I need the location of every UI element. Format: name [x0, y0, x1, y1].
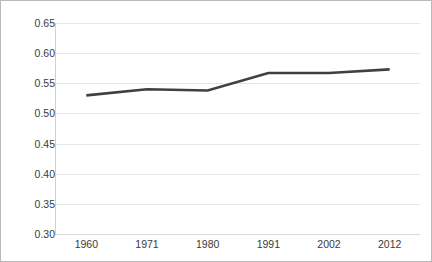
x-axis-tick-labels: 196019711980199120022012 [56, 239, 420, 257]
plot-area [56, 23, 420, 234]
y-axis-tick-labels: 0.650.600.550.500.450.400.350.30 [7, 6, 55, 256]
chart-frame: 0.650.600.550.500.450.400.350.30 1960197… [0, 0, 432, 262]
y-axis-tick-label: 0.40 [11, 169, 55, 180]
y-axis-tick-label: 0.50 [11, 108, 55, 119]
x-axis-line [56, 234, 420, 235]
y-axis-tick-label: 0.65 [11, 18, 55, 29]
chart-plot-container: 0.650.600.550.500.450.400.350.30 1960197… [7, 6, 425, 256]
y-axis-tick-label: 0.30 [11, 229, 55, 240]
x-axis-tick-label: 1960 [56, 239, 116, 250]
x-axis-tick-label: 1980 [178, 239, 238, 250]
x-axis-tick-label: 1991 [238, 239, 298, 250]
y-axis-tick-label: 0.60 [11, 48, 55, 59]
y-axis-tick-label: 0.45 [11, 139, 55, 150]
y-axis-tick-label: 0.55 [11, 78, 55, 89]
y-axis-tick-label: 0.35 [11, 199, 55, 210]
line-series-chart [56, 23, 420, 234]
x-axis-tick-label: 2002 [299, 239, 359, 250]
x-axis-tick-label: 1971 [117, 239, 177, 250]
series-line-path [86, 69, 389, 95]
x-axis-tick-label: 2012 [360, 239, 420, 250]
